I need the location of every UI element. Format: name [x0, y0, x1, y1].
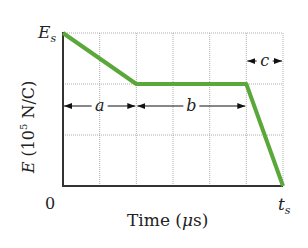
x-axis-label: Time (μs)	[127, 210, 208, 230]
x-tick-origin-label: 0	[45, 194, 55, 213]
interval-label-b: b	[186, 96, 196, 115]
y-tick-top-label: Es	[38, 22, 56, 45]
interval-label-a: a	[95, 96, 105, 115]
interval-label-c: c	[260, 51, 269, 70]
y-axis-label: E (105 N/C)	[18, 81, 37, 174]
x-tick-end-label: ts	[278, 194, 291, 217]
